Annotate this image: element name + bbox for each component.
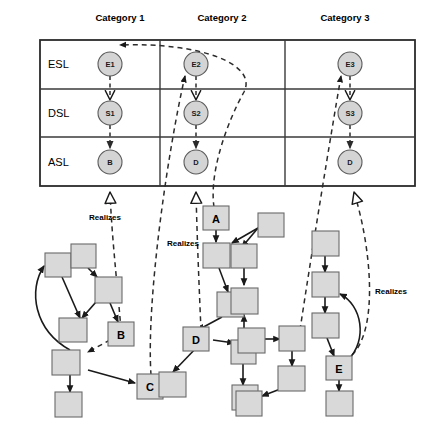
matrix-node-s3-label: S3	[345, 109, 354, 118]
matrix-node-s3[interactable]: S3	[338, 101, 362, 125]
matrix-node-asl-cat1[interactable]: B	[98, 150, 122, 174]
graph-node-a-label: A	[212, 213, 220, 225]
graph-node-l4[interactable]	[59, 318, 87, 342]
graph-node-b-label: B	[117, 329, 125, 341]
graph-node-r3[interactable]	[312, 313, 339, 338]
graph-node-m11[interactable]	[236, 391, 262, 416]
graph-node-m7[interactable]	[238, 328, 265, 353]
graph-node-m6[interactable]	[231, 288, 258, 314]
diagram-canvas: Category 1 Category 2 Category 3 ESL DSL…	[0, 0, 431, 427]
realizes-label-b: Realizes	[89, 213, 122, 222]
graph-node-l1[interactable]	[45, 253, 71, 277]
realizes-label-e: Realizes	[375, 287, 408, 296]
matrix-node-e2[interactable]: E2	[184, 52, 208, 76]
matrix-node-s1[interactable]: S1	[98, 101, 122, 125]
graph-node-c-label: C	[146, 381, 154, 393]
row-label-asl: ASL	[48, 156, 69, 168]
graph-node-m10[interactable]	[278, 366, 305, 391]
matrix-node-e3[interactable]: E3	[338, 52, 362, 76]
graph-node-a[interactable]: A	[203, 206, 229, 230]
column-header-cat1: Category 1	[95, 12, 145, 23]
realization-diagram: Category 1 Category 2 Category 3 ESL DSL…	[0, 0, 431, 427]
matrix-node-asl-cat2-label: D	[193, 158, 199, 167]
matrix-node-e1[interactable]: E1	[98, 52, 122, 76]
graph-node-l6[interactable]	[55, 392, 82, 417]
matrix-node-e1-label: E1	[105, 60, 114, 69]
matrix-node-asl-cat1-label: B	[107, 158, 113, 167]
row-label-dsl: DSL	[48, 107, 69, 119]
column-headers: Category 1 Category 2 Category 3	[95, 12, 369, 23]
matrix-node-s2[interactable]: S2	[184, 101, 208, 125]
graph-node-m1[interactable]	[203, 243, 230, 268]
graph-node-m0[interactable]	[258, 213, 284, 237]
graph-node-m3[interactable]	[159, 372, 186, 397]
graph-node-r4[interactable]	[326, 391, 353, 416]
matrix-node-asl-cat3[interactable]: D	[338, 150, 362, 174]
graph-node-m5[interactable]	[231, 244, 257, 268]
graph-node-m8[interactable]	[279, 326, 305, 351]
matrix-node-asl-cat2[interactable]: D	[184, 150, 208, 174]
column-header-cat3: Category 3	[320, 12, 369, 23]
graph-node-e-label: E	[335, 363, 342, 375]
matrix-node-e3-label: E3	[345, 60, 354, 69]
graph-node-l2[interactable]	[71, 244, 96, 268]
graph-node-l3[interactable]	[95, 277, 122, 303]
graph-node-b[interactable]: B	[108, 322, 134, 346]
matrix-node-s2-label: S2	[191, 109, 200, 118]
graph-node-e[interactable]: E	[326, 356, 352, 380]
row-label-esl: ESL	[48, 58, 69, 70]
matrix-node-asl-cat3-label: D	[347, 158, 353, 167]
graph-node-d[interactable]: D	[183, 327, 209, 351]
matrix-node-e2-label: E2	[191, 60, 200, 69]
graph-node-l5[interactable]	[52, 350, 80, 375]
graph-node-r1[interactable]	[312, 231, 339, 256]
graph-node-d-label: D	[192, 334, 200, 346]
matrix-node-s1-label: S1	[105, 109, 114, 118]
realizes-label-d: Realizes	[167, 239, 200, 248]
graph-node-r2[interactable]	[312, 272, 339, 297]
column-header-cat2: Category 2	[197, 12, 246, 23]
